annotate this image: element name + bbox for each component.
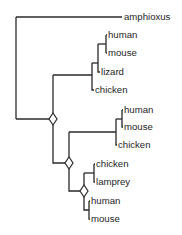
duplication-node-icon <box>65 157 73 169</box>
leaf-label-mouse: mouse <box>108 48 137 58</box>
branch-dup1-down <box>53 125 65 163</box>
leaf-label-mouse: mouse <box>91 214 120 224</box>
leaf-label-chicken: chicken <box>96 159 129 169</box>
leaf-label-lamprey: lamprey <box>96 177 130 187</box>
leaf-label-amphioxus: amphioxus <box>124 12 170 22</box>
leaf-label-chicken: chicken <box>95 85 128 95</box>
branch-dup2-down <box>69 169 80 191</box>
leaf-label-mouse: mouse <box>124 122 153 132</box>
leaf-label-human: human <box>124 105 153 115</box>
branch-hm3-vertical <box>89 201 90 219</box>
leaf-label-chicken: chicken <box>118 140 151 150</box>
duplication-node-icon <box>80 185 88 197</box>
leaf-label-human: human <box>91 196 120 206</box>
branch-cl-vertical <box>94 164 95 182</box>
leaf-label-human: human <box>108 30 137 40</box>
branch-dup3-down <box>84 197 89 210</box>
branch-hm2-vertical <box>122 110 123 127</box>
leaf-label-lizard: lizard <box>101 67 124 77</box>
branch-groupB-vertical <box>116 119 117 145</box>
duplication-node-icon <box>49 113 57 125</box>
branch-hml-vertical <box>98 44 100 72</box>
branch-groupA-vertical <box>92 63 94 90</box>
